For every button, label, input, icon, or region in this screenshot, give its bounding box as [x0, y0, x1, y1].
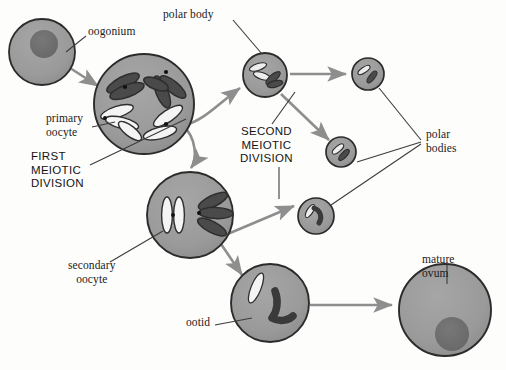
- label-oogonium: oogonium: [88, 25, 135, 39]
- label-ootid: ootid: [186, 316, 210, 330]
- label-first-meiotic-division: FIRST MEIOTIC DIVISION: [31, 150, 84, 191]
- label-mature-ovum: mature ovum: [422, 253, 455, 280]
- label-secondary-oocyte: secondary oocyte: [68, 259, 116, 286]
- oogonium-nucleus: [30, 30, 58, 58]
- cell-secondary-oocyte: [147, 172, 233, 258]
- cell-polar-body-2: [352, 58, 384, 90]
- cell-ootid: [231, 264, 309, 342]
- cell-oogonium: [9, 19, 75, 85]
- arrow-secondary-to-ootid: [219, 241, 242, 275]
- leader-polarbodies-a: [379, 88, 421, 140]
- cell-polar-body-1: [243, 53, 287, 97]
- label-polar-bodies: polar bodies: [426, 128, 457, 155]
- leader-secondary-oocyte: [110, 231, 163, 262]
- figure-caption: [0, 360, 506, 370]
- cell-polar-body-3: [326, 137, 356, 167]
- oogenesis-diagram: oogonium primary oocyte FIRST MEIOTIC DI…: [0, 0, 506, 370]
- label-polar-body: polar body: [163, 8, 214, 22]
- leader-polar-body: [233, 20, 262, 54]
- arrow-oogonium-to-primary: [70, 68, 98, 86]
- leader-polarbodies-b: [357, 142, 421, 162]
- label-primary-oocyte: primary oocyte: [46, 112, 83, 139]
- cell-polar-body-4: [298, 198, 334, 234]
- label-second-meiotic-division: SECOND MEIOTIC DIVISION: [240, 125, 293, 166]
- mature-ovum-nucleus: [435, 317, 469, 351]
